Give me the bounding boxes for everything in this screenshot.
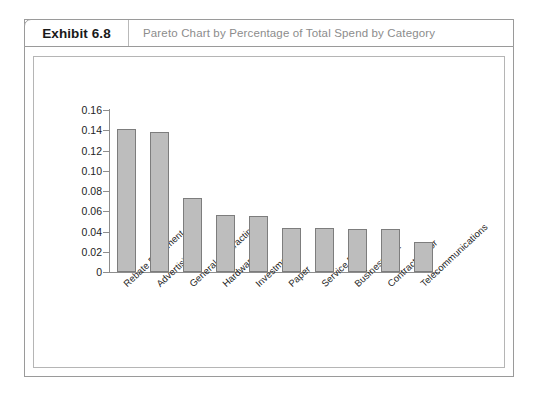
chart-bar (117, 129, 136, 272)
chart-bar (282, 228, 301, 272)
y-axis-tick (103, 272, 109, 273)
y-axis-tick (103, 252, 109, 253)
y-axis-tick-label: 0.02 (60, 246, 102, 258)
chart-bar (414, 242, 433, 272)
chart-bar (249, 216, 268, 272)
y-axis-tick-label: 0.04 (60, 226, 102, 238)
y-axis-tick (103, 211, 109, 212)
chart-bar (216, 215, 235, 272)
y-axis-tick (103, 171, 109, 172)
chart-bar (183, 198, 202, 272)
y-axis-tick-label: 0.08 (60, 185, 102, 197)
chart-bar (150, 132, 169, 272)
y-axis-tick (103, 130, 109, 131)
y-axis-tick (103, 151, 109, 152)
y-axis-line (109, 109, 110, 273)
y-axis-tick-label: 0 (60, 266, 102, 278)
chart-bar (348, 229, 367, 272)
y-axis-tick-label: 0.14 (60, 124, 102, 136)
y-axis-tick (103, 232, 109, 233)
y-axis-tick-label: 0.16 (60, 104, 102, 116)
y-axis-tick-label: 0.06 (60, 205, 102, 217)
pareto-chart-plot: 0.160.140.120.100.080.060.040.020Rebate … (0, 0, 538, 395)
chart-bar (381, 229, 400, 272)
y-axis-tick-label: 0.12 (60, 145, 102, 157)
y-axis-tick-label: 0.10 (60, 165, 102, 177)
chart-bar (315, 228, 334, 272)
y-axis-tick (103, 110, 109, 111)
exhibit-page: Exhibit 6.8 Pareto Chart by Percentage o… (0, 0, 538, 395)
y-axis-tick (103, 191, 109, 192)
